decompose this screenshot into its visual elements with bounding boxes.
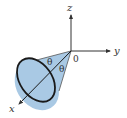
cone-diagram: z y x 0 θ θ — [0, 0, 127, 118]
theta-lower-label: θ — [59, 64, 64, 74]
y-axis-label: y — [113, 45, 120, 56]
x-axis-label: x — [9, 103, 15, 114]
origin-label: 0 — [73, 54, 79, 64]
theta-upper-label: θ — [47, 57, 52, 67]
z-axis-label: z — [66, 2, 73, 13]
